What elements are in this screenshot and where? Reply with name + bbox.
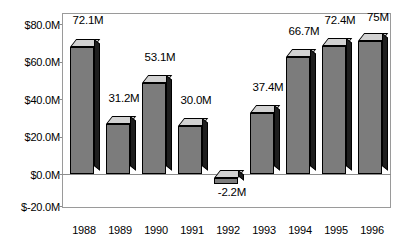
bar-front-face (106, 124, 130, 174)
y-axis-tick-label: $-20.0M (0, 201, 60, 213)
y-axis-tick-label: $40.0M (0, 94, 60, 106)
bar-front-face (250, 113, 274, 174)
y-axis-tick-label: $80.0M (0, 19, 60, 31)
bar-1994[interactable] (286, 49, 316, 174)
bar-front-face (70, 47, 94, 174)
y-axis-tick-label: $0.0M (0, 169, 60, 181)
bar-side-face (130, 116, 136, 171)
bar-side-face (382, 33, 388, 171)
bar-1991[interactable] (178, 118, 208, 174)
bar-side-face (238, 170, 244, 181)
bar-value-label-1988: 72.1M (62, 14, 114, 26)
bar-side-face (346, 38, 352, 171)
bar-1995[interactable] (322, 38, 352, 174)
bar-value-label-1994: 66.7M (278, 25, 330, 37)
y-axis: $80.0M $60.0M $40.0M $20.0M $0.0M $-20.0… (0, 0, 60, 242)
bar-1993[interactable] (250, 105, 280, 174)
y-axis-tick-label: $60.0M (0, 56, 60, 68)
x-axis-tick-label-1996: 1996 (346, 224, 398, 236)
bar-value-label-1991: 30.0M (170, 94, 222, 106)
y-axis-tick-label: $20.0M (0, 131, 60, 143)
bar-1996[interactable] (358, 33, 388, 174)
bar-side-face (202, 118, 208, 171)
bar-side-face (274, 105, 280, 171)
bar-1988[interactable] (70, 39, 100, 174)
bar-1989[interactable] (106, 116, 136, 174)
bar-front-face (358, 41, 382, 174)
bar-1992[interactable] (214, 170, 244, 184)
bar-front-face (214, 178, 238, 184)
bar-value-label-1996: 75M (352, 11, 404, 23)
bar-side-face (94, 39, 100, 171)
bar-value-label-1989: 31.2M (98, 92, 150, 104)
bar-side-face (166, 75, 172, 171)
bar-value-label-1993: 37.4M (242, 81, 294, 93)
bar-value-label-1992: -2.2M (206, 186, 258, 198)
bar-front-face (322, 46, 346, 174)
bar-side-face (310, 49, 316, 171)
bar-value-label-1990: 53.1M (134, 51, 186, 63)
bar-front-face (286, 57, 310, 174)
bar-front-face (178, 126, 202, 174)
bar-chart: $80.0M $60.0M $40.0M $20.0M $0.0M $-20.0… (0, 0, 419, 242)
bar-1990[interactable] (142, 75, 172, 174)
